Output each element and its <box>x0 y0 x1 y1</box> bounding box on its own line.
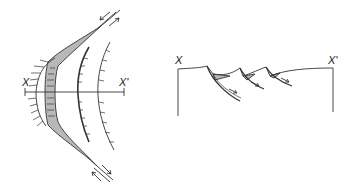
section-label-x-prime: X' <box>327 54 338 66</box>
thrust-fault-2 <box>240 68 264 89</box>
middle-thrust-trace <box>78 47 89 142</box>
bottom-arrow-right-icon <box>102 165 111 174</box>
section-label-x: X <box>174 54 183 66</box>
top-arrow-right-icon <box>109 18 119 26</box>
slip-arrow-2-icon <box>251 82 259 86</box>
top-surface <box>178 66 333 76</box>
outer-thrust-trace <box>98 42 114 150</box>
plan-label-x-prime: X' <box>118 76 129 88</box>
figure: X X' X X' <box>0 0 354 188</box>
plan-label-x: X <box>21 76 30 88</box>
slip-arrow-1-icon <box>229 89 237 93</box>
shaded-fault-band <box>45 26 101 166</box>
plan-view <box>25 10 124 182</box>
cross-section <box>178 66 333 116</box>
